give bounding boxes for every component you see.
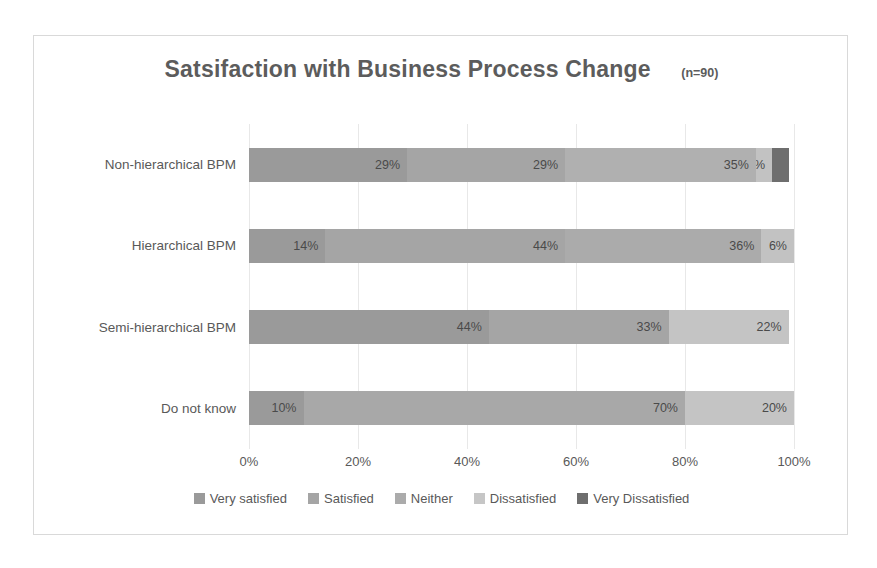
stacked-bar[interactable]: 29%29%35%3%3% xyxy=(249,148,794,182)
legend-label: Satisfied xyxy=(324,491,374,506)
segment-value-label: 35% xyxy=(724,158,756,172)
x-axis-tick-label: 40% xyxy=(454,454,480,469)
x-axis: 0%20%40%60%80%100% xyxy=(249,454,794,476)
legend-label: Neither xyxy=(411,491,453,506)
segment-value-label: 10% xyxy=(271,401,303,415)
legend-item-very-satisfied[interactable]: Very satisfied xyxy=(194,491,287,506)
bar-row: Do not know10%70%20% xyxy=(249,368,794,449)
bar-rows: Non-hierarchical BPM29%29%35%3%3%Hierarc… xyxy=(249,124,794,449)
segment-value-label: 29% xyxy=(533,158,565,172)
category-label: Non-hierarchical BPM xyxy=(105,157,236,172)
bar-segment-satisfied[interactable]: 29% xyxy=(407,148,565,182)
legend-item-very-dissatisfied[interactable]: Very Dissatisfied xyxy=(577,491,689,506)
legend-swatch-icon xyxy=(308,493,319,504)
stacked-bar[interactable]: 10%70%20% xyxy=(249,391,794,425)
legend-swatch-icon xyxy=(395,493,406,504)
x-axis-tick-label: 60% xyxy=(563,454,589,469)
bar-segment-satisfied[interactable]: 33% xyxy=(489,310,669,344)
x-axis-tick-label: 0% xyxy=(240,454,259,469)
bar-segment-satisfied[interactable]: 70% xyxy=(304,391,686,425)
chart-title-row: Satsifaction with Business Process Chang… xyxy=(34,56,849,83)
plot-area: Non-hierarchical BPM29%29%35%3%3%Hierarc… xyxy=(249,124,794,449)
gridline-100 xyxy=(794,124,795,449)
chart-frame: Satsifaction with Business Process Chang… xyxy=(33,35,848,535)
segment-value-label: 22% xyxy=(757,320,789,334)
legend-label: Very satisfied xyxy=(210,491,287,506)
legend-swatch-icon xyxy=(577,493,588,504)
segment-value-label: 29% xyxy=(375,158,407,172)
stacked-bar[interactable]: 44%33%22% xyxy=(249,310,794,344)
bar-segment-dissatisfied[interactable]: 3% xyxy=(756,148,772,182)
category-label: Semi-hierarchical BPM xyxy=(99,320,236,335)
segment-value-label: 20% xyxy=(762,401,794,415)
segment-value-label: 70% xyxy=(653,401,685,415)
x-axis-tick-label: 80% xyxy=(672,454,698,469)
legend-item-dissatisfied[interactable]: Dissatisfied xyxy=(474,491,556,506)
chart-legend: Very satisfiedSatisfiedNeitherDissatisfi… xyxy=(34,491,849,506)
category-label: Hierarchical BPM xyxy=(132,238,236,253)
legend-swatch-icon xyxy=(194,493,205,504)
legend-label: Very Dissatisfied xyxy=(593,491,689,506)
segment-value-label: 6% xyxy=(769,239,794,253)
bar-segment-very-dissatisfied[interactable]: 3% xyxy=(772,148,788,182)
x-axis-tick-label: 20% xyxy=(345,454,371,469)
category-label: Do not know xyxy=(161,401,236,416)
bar-row: Non-hierarchical BPM29%29%35%3%3% xyxy=(249,124,794,205)
bar-segment-very-satisfied[interactable]: 44% xyxy=(249,310,489,344)
bar-segment-very-satisfied[interactable]: 29% xyxy=(249,148,407,182)
stacked-bar[interactable]: 14%44%36%6% xyxy=(249,229,794,263)
bar-row: Semi-hierarchical BPM44%33%22% xyxy=(249,287,794,368)
bar-segment-very-satisfied[interactable]: 10% xyxy=(249,391,304,425)
bar-segment-very-satisfied[interactable]: 14% xyxy=(249,229,325,263)
legend-item-satisfied[interactable]: Satisfied xyxy=(308,491,374,506)
segment-value-label: 44% xyxy=(457,320,489,334)
segment-value-label: 14% xyxy=(293,239,325,253)
bar-segment-dissatisfied[interactable]: 6% xyxy=(761,229,794,263)
bar-segment-neither[interactable]: 36% xyxy=(565,229,761,263)
legend-swatch-icon xyxy=(474,493,485,504)
sample-size-annotation: (n=90) xyxy=(681,66,718,80)
chart-title: Satsifaction with Business Process Chang… xyxy=(165,56,651,82)
legend-item-neither[interactable]: Neither xyxy=(395,491,453,506)
bar-segment-dissatisfied[interactable]: 22% xyxy=(669,310,789,344)
x-axis-tick-label: 100% xyxy=(777,454,810,469)
segment-value-label: 36% xyxy=(729,239,761,253)
bar-segment-satisfied[interactable]: 44% xyxy=(325,229,565,263)
segment-value-label: 33% xyxy=(637,320,669,334)
segment-value-label: 3% xyxy=(756,158,772,172)
legend-label: Dissatisfied xyxy=(490,491,556,506)
bar-segment-neither[interactable]: 35% xyxy=(565,148,756,182)
bar-segment-dissatisfied[interactable]: 20% xyxy=(685,391,794,425)
segment-value-label: 44% xyxy=(533,239,565,253)
bar-row: Hierarchical BPM14%44%36%6% xyxy=(249,205,794,286)
